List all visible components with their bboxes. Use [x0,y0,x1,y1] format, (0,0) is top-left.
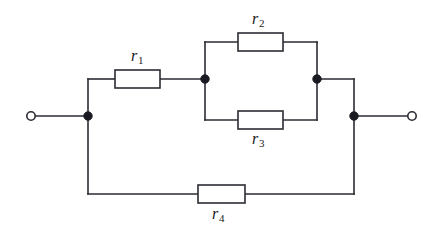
label-r2-subscript: 2 [259,17,265,29]
label-r1-subscript: 1 [138,54,144,66]
junction-mid-right [313,75,321,83]
resistor-r4-body [198,185,245,203]
label-r2-text: r [252,10,258,27]
label-r1: r1 [131,48,143,64]
label-r3-text: r [252,130,258,147]
label-r3: r3 [252,131,264,147]
terminal-right-open-circle [408,112,416,120]
label-r4: r4 [212,206,224,222]
label-r3-subscript: 3 [259,137,265,149]
label-r2: r2 [252,11,264,27]
resistor-r2-body [238,33,283,51]
label-r4-text: r [212,205,218,222]
resistor-r1-body [115,70,160,88]
circuit-diagram-canvas: r1 r2 r3 r4 [0,0,439,243]
junction-left [84,112,92,120]
terminal-left-open-circle [27,112,35,120]
label-r1-text: r [131,47,137,64]
junction-mid-left [201,75,209,83]
label-r4-subscript: 4 [219,212,225,224]
resistor-r3-body [238,111,283,129]
junction-right [350,112,358,120]
